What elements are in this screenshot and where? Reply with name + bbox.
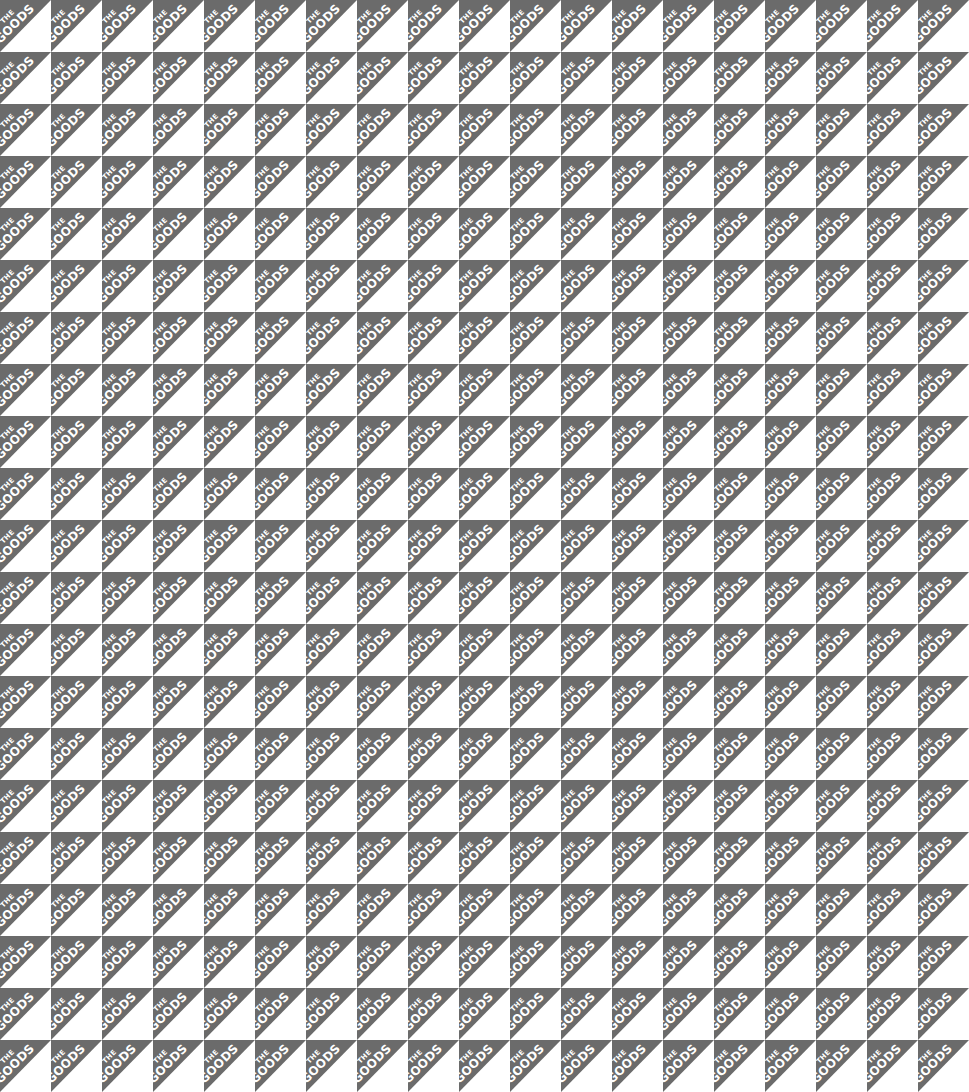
logo-tile: THE GOODS xyxy=(714,468,765,520)
logo-tile: THE GOODS xyxy=(765,676,816,728)
logo-tile: THE GOODS xyxy=(663,312,714,364)
logo-tile: THE GOODS xyxy=(510,416,561,468)
logo-tile: THE GOODS xyxy=(765,468,816,520)
logo-tile: THE GOODS xyxy=(561,572,612,624)
logo-tile: THE GOODS xyxy=(510,0,561,52)
logo-tile: THE GOODS xyxy=(0,312,51,364)
logo-tile: THE GOODS xyxy=(867,312,918,364)
logo-tile: THE GOODS xyxy=(204,468,255,520)
logo-tile: THE GOODS xyxy=(51,416,102,468)
logo-tile: THE GOODS xyxy=(918,208,969,260)
logo-tile: THE GOODS xyxy=(204,936,255,988)
logo-tile: THE GOODS xyxy=(0,780,51,832)
logo-tile: THE GOODS xyxy=(714,780,765,832)
logo-tile: THE GOODS xyxy=(561,0,612,52)
logo-tile: THE GOODS xyxy=(663,728,714,780)
logo-tile: THE GOODS xyxy=(357,156,408,208)
logo-tile: THE GOODS xyxy=(816,52,867,104)
logo-tile: THE GOODS xyxy=(561,416,612,468)
logo-tile: THE GOODS xyxy=(153,780,204,832)
logo-tile: THE GOODS xyxy=(153,208,204,260)
logo-tile: THE GOODS xyxy=(255,104,306,156)
logo-tile: THE GOODS xyxy=(306,988,357,1040)
logo-tile: THE GOODS xyxy=(408,104,459,156)
logo-tile: THE GOODS xyxy=(612,364,663,416)
logo-tile: THE GOODS xyxy=(51,364,102,416)
logo-tile: THE GOODS xyxy=(306,780,357,832)
logo-tile: THE GOODS xyxy=(357,104,408,156)
logo-tile: THE GOODS xyxy=(765,0,816,52)
logo-tile: THE GOODS xyxy=(918,988,969,1040)
logo-tile: THE GOODS xyxy=(255,832,306,884)
logo-tile: THE GOODS xyxy=(255,520,306,572)
logo-tile: THE GOODS xyxy=(153,156,204,208)
logo-tile: THE GOODS xyxy=(663,468,714,520)
logo-tile: THE GOODS xyxy=(0,52,51,104)
logo-tile: THE GOODS xyxy=(765,832,816,884)
logo-tile: THE GOODS xyxy=(306,416,357,468)
logo-tile: THE GOODS xyxy=(918,468,969,520)
logo-tile: THE GOODS xyxy=(357,416,408,468)
logo-tile: THE GOODS xyxy=(51,1040,102,1092)
logo-tile: THE GOODS xyxy=(153,676,204,728)
brand-pattern: THE GOODS THE GOODS THE GOODS THE GOODS … xyxy=(0,0,969,1092)
logo-tile: THE GOODS xyxy=(255,624,306,676)
logo-tile: THE GOODS xyxy=(612,1040,663,1092)
logo-tile: THE GOODS xyxy=(765,52,816,104)
logo-tile: THE GOODS xyxy=(357,312,408,364)
logo-tile: THE GOODS xyxy=(204,312,255,364)
logo-tile: THE GOODS xyxy=(102,832,153,884)
logo-tile: THE GOODS xyxy=(357,728,408,780)
logo-tile: THE GOODS xyxy=(918,104,969,156)
logo-tile: THE GOODS xyxy=(765,312,816,364)
logo-tile: THE GOODS xyxy=(510,728,561,780)
logo-tile: THE GOODS xyxy=(0,416,51,468)
logo-tile: THE GOODS xyxy=(714,832,765,884)
logo-tile: THE GOODS xyxy=(765,208,816,260)
logo-tile: THE GOODS xyxy=(561,468,612,520)
logo-tile: THE GOODS xyxy=(408,520,459,572)
logo-tile: THE GOODS xyxy=(51,104,102,156)
logo-tile: THE GOODS xyxy=(561,832,612,884)
logo-tile: THE GOODS xyxy=(561,52,612,104)
logo-tile: THE GOODS xyxy=(204,780,255,832)
logo-tile: THE GOODS xyxy=(306,208,357,260)
logo-tile: THE GOODS xyxy=(102,572,153,624)
logo-tile: THE GOODS xyxy=(765,936,816,988)
logo-tile: THE GOODS xyxy=(0,104,51,156)
logo-tile: THE GOODS xyxy=(51,676,102,728)
logo-tile: THE GOODS xyxy=(561,624,612,676)
logo-tile: THE GOODS xyxy=(459,156,510,208)
logo-tile: THE GOODS xyxy=(357,468,408,520)
logo-tile: THE GOODS xyxy=(0,988,51,1040)
logo-tile: THE GOODS xyxy=(153,988,204,1040)
logo-tile: THE GOODS xyxy=(306,520,357,572)
logo-tile: THE GOODS xyxy=(867,936,918,988)
logo-tile: THE GOODS xyxy=(204,416,255,468)
logo-tile: THE GOODS xyxy=(765,728,816,780)
logo-tile: THE GOODS xyxy=(204,364,255,416)
logo-tile: THE GOODS xyxy=(765,780,816,832)
logo-tile: THE GOODS xyxy=(561,1040,612,1092)
logo-tile: THE GOODS xyxy=(204,676,255,728)
logo-tile: THE GOODS xyxy=(510,1040,561,1092)
logo-tile: THE GOODS xyxy=(816,572,867,624)
logo-tile: THE GOODS xyxy=(306,676,357,728)
logo-tile: THE GOODS xyxy=(408,312,459,364)
logo-tile: THE GOODS xyxy=(153,884,204,936)
logo-tile: THE GOODS xyxy=(510,364,561,416)
logo-tile: THE GOODS xyxy=(867,676,918,728)
logo-tile: THE GOODS xyxy=(816,416,867,468)
logo-tile: THE GOODS xyxy=(612,676,663,728)
logo-tile: THE GOODS xyxy=(408,832,459,884)
logo-tile: THE GOODS xyxy=(918,780,969,832)
logo-tile: THE GOODS xyxy=(714,208,765,260)
logo-tile: THE GOODS xyxy=(867,364,918,416)
logo-tile: THE GOODS xyxy=(153,104,204,156)
logo-tile: THE GOODS xyxy=(765,104,816,156)
logo-tile: THE GOODS xyxy=(765,364,816,416)
logo-tile: THE GOODS xyxy=(0,572,51,624)
logo-tile: THE GOODS xyxy=(102,260,153,312)
logo-tile: THE GOODS xyxy=(663,156,714,208)
logo-tile: THE GOODS xyxy=(51,884,102,936)
